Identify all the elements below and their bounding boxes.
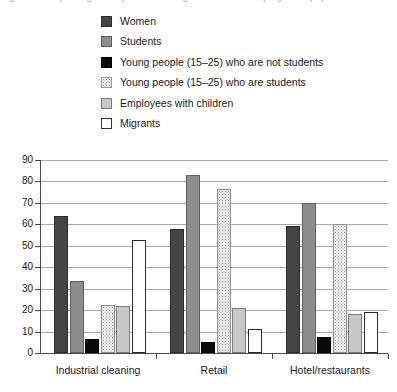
bar-young-not-students-group-1: [85, 339, 99, 353]
y-axis-labels: 0102030405060708090: [0, 160, 33, 354]
bar-women-group-2: [170, 229, 184, 353]
legend-label-migrants: Migrants: [120, 118, 160, 129]
x-axis-label-1: Industrial cleaning: [40, 364, 156, 376]
y-tick-mark-50: [35, 246, 40, 247]
light-gray-square-icon: [101, 98, 112, 109]
bar-employees-with-children-group-2: [232, 308, 246, 353]
y-tick-mark-30: [35, 289, 40, 290]
legend-item-employees-with-children: Employees with children: [101, 93, 391, 114]
x-tick-mark-3: [388, 354, 389, 359]
y-tick-label-90: 90: [3, 155, 33, 165]
y-tick-label-40: 40: [3, 262, 33, 272]
bar-young-students-group-1: [101, 305, 115, 353]
bar-migrants-group-2: [248, 329, 262, 353]
legend-item-migrants: Migrants: [101, 114, 391, 135]
clipped-caption-remnant: Figure: Groups targeted by collective ag…: [0, 0, 397, 5]
medium-gray-square-icon: [101, 36, 112, 47]
bar-students-group-2: [186, 175, 200, 353]
y-tick-mark-80: [35, 181, 40, 182]
dark-gray-square-icon: [101, 16, 112, 27]
bar-women-group-3: [286, 226, 300, 353]
legend-label-employees-with-children: Employees with children: [120, 98, 233, 109]
legend-item-women: Women: [101, 11, 391, 32]
bar-chart-plot: 0102030405060708090 Industrial cleaningR…: [0, 152, 397, 392]
y-tick-label-50: 50: [3, 241, 33, 251]
black-square-icon: [101, 57, 112, 68]
x-tick-mark-2: [272, 354, 273, 359]
y-tick-label-80: 80: [3, 176, 33, 186]
bar-migrants-group-3: [364, 312, 378, 353]
legend-item-students: Students: [101, 32, 391, 53]
x-axis-label-3: Hotel/restaurants: [272, 364, 388, 376]
y-tick-label-10: 10: [3, 327, 33, 337]
bar-young-not-students-group-2: [201, 342, 215, 353]
bar-young-students-group-2: [217, 189, 231, 353]
y-tick-mark-10: [35, 332, 40, 333]
dotted-square-icon: [101, 77, 112, 88]
x-axis-label-2: Retail: [156, 364, 272, 376]
chart-legend: Women Students Young people (15–25) who …: [101, 11, 391, 134]
legend-label-students: Students: [120, 36, 161, 47]
bar-women-group-1: [54, 216, 68, 353]
y-tick-mark-40: [35, 267, 40, 268]
x-tick-mark-1: [156, 354, 157, 359]
bar-employees-with-children-group-3: [348, 314, 362, 353]
y-tick-label-70: 70: [3, 198, 33, 208]
y-tick-mark-20: [35, 310, 40, 311]
y-tick-label-30: 30: [3, 284, 33, 294]
bar-young-not-students-group-3: [317, 337, 331, 353]
y-tick-label-60: 60: [3, 219, 33, 229]
y-tick-mark-70: [35, 203, 40, 204]
legend-item-young-students: Young people (15–25) who are students: [101, 73, 391, 94]
x-axis-line: [40, 353, 388, 354]
legend-label-young-not-students: Young people (15–25) who are not student…: [120, 57, 323, 68]
white-square-icon: [101, 118, 112, 129]
y-tick-mark-90: [35, 160, 40, 161]
bar-series-container: [40, 160, 388, 354]
y-tick-mark-0: [35, 353, 40, 354]
legend-item-young-not-students: Young people (15–25) who are not student…: [101, 52, 391, 73]
y-tick-mark-60: [35, 224, 40, 225]
bar-migrants-group-1: [132, 240, 146, 353]
bar-employees-with-children-group-1: [116, 306, 130, 353]
bar-students-group-1: [70, 281, 84, 353]
legend-label-women: Women: [120, 16, 156, 27]
bar-students-group-3: [302, 203, 316, 353]
bar-young-students-group-3: [333, 224, 347, 353]
y-tick-label-20: 20: [3, 305, 33, 315]
y-tick-label-0: 0: [3, 348, 33, 358]
legend-label-young-students: Young people (15–25) who are students: [120, 77, 306, 88]
